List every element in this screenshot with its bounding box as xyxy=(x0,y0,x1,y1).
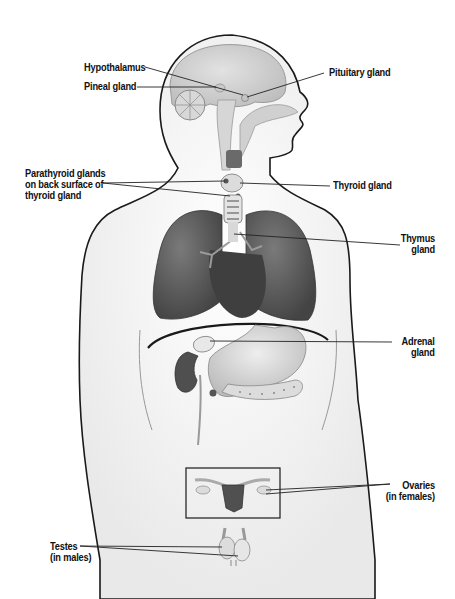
label-thymus-gland: Thymus gland xyxy=(401,233,435,255)
label-pineal-gland: Pineal gland xyxy=(84,81,136,92)
label-testes: Testes (in males) xyxy=(50,541,91,563)
label-text: Hypothalamus xyxy=(84,62,146,73)
label-ovaries: Ovaries (in females) xyxy=(386,480,435,502)
label-adrenal-gland: Adrenal gland xyxy=(402,336,435,358)
lungs-heart xyxy=(153,211,316,321)
label-text: Pineal gland xyxy=(84,81,136,92)
label-thyroid-gland: Thyroid gland xyxy=(333,180,392,191)
body-illustration xyxy=(0,0,455,599)
label-pituitary-gland: Pituitary gland xyxy=(329,67,391,78)
label-text: (in females) xyxy=(386,491,435,502)
label-text: thyroid gland xyxy=(25,190,106,201)
endocrine-diagram: Hypothalamus Pineal gland Pituitary glan… xyxy=(0,0,455,599)
label-text: Pituitary gland xyxy=(329,67,391,78)
label-text: gland xyxy=(402,347,435,358)
label-parathyroid-glands: Parathyroid glands on back surface of th… xyxy=(25,168,106,201)
label-text: (in males) xyxy=(50,552,91,563)
label-text: gland xyxy=(401,244,435,255)
label-hypothalamus: Hypothalamus xyxy=(84,62,146,73)
label-text: Thyroid gland xyxy=(333,180,392,191)
